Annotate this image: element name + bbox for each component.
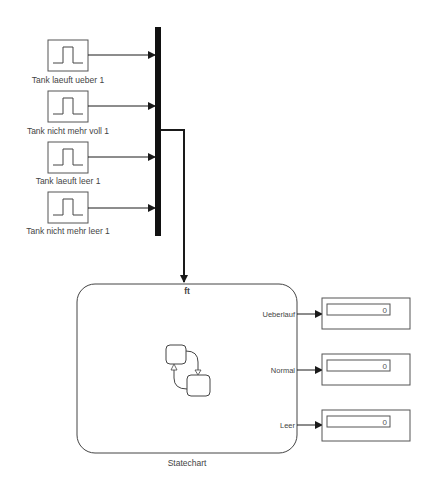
simulink-diagram: Tank laeuft ueber 1 Tank nicht mehr voll…	[0, 0, 437, 481]
display-block[interactable]: 0	[322, 354, 410, 385]
pulse-label: Tank laeuft leer 1	[36, 176, 101, 186]
pulse-label: Tank laeuft ueber 1	[32, 75, 105, 85]
pulse-label: Tank nicht mehr voll 1	[27, 126, 109, 136]
display-field	[327, 416, 390, 427]
pulse-generator-block[interactable]: Tank nicht mehr voll 1	[27, 91, 109, 136]
display-value: 0	[383, 306, 388, 315]
pulse-generator-block[interactable]: Tank laeuft ueber 1	[32, 40, 105, 85]
trigger-port-symbol: ft	[184, 286, 190, 296]
display-block[interactable]: 0	[322, 410, 410, 441]
statechart-label: Statechart	[168, 458, 207, 468]
pulse-generator-block[interactable]: Tank nicht mehr leer 1	[26, 192, 110, 236]
display-block[interactable]: 0	[322, 298, 410, 329]
output-port-label: Leer	[280, 421, 296, 430]
output-port-label: Normal	[271, 366, 296, 375]
statechart-block[interactable]: ft Ueberlauf Normal Leer	[77, 284, 297, 453]
pulse-label: Tank nicht mehr leer 1	[26, 226, 110, 236]
display-field	[327, 304, 390, 315]
trigger-signal-line[interactable]	[161, 130, 184, 282]
display-value: 0	[383, 362, 388, 371]
pulse-generator-block[interactable]: Tank laeuft leer 1	[36, 142, 101, 186]
display-field	[327, 360, 390, 371]
display-value: 0	[383, 418, 388, 427]
output-port-label: Ueberlauf	[262, 310, 295, 319]
mux-bus-bar[interactable]	[155, 27, 161, 236]
